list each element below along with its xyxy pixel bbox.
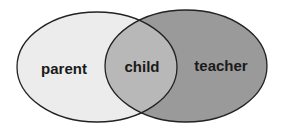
parent-label: parent (41, 60, 87, 77)
teacher-label: teacher (194, 57, 248, 74)
venn-diagram: parent child teacher (0, 0, 281, 136)
child-label: child (124, 58, 159, 75)
